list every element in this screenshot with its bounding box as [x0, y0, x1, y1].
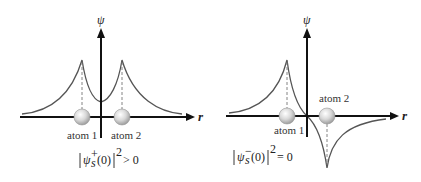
- x-axis-arrow-icon: [390, 112, 399, 120]
- atom2-label: atom 2: [111, 129, 141, 141]
- formula-arg: (0): [251, 150, 265, 164]
- formula-relation: = 0: [277, 150, 293, 164]
- x-axis-arrow-icon: [186, 113, 195, 121]
- bonding-diagram: r ψ atom 1 atom 2 ψ s + (0) 2 > 0: [20, 13, 204, 170]
- formula-psi: ψ: [83, 153, 91, 167]
- wavefunction-figure: r ψ atom 1 atom 2 ψ s + (0) 2 > 0: [0, 0, 421, 182]
- y-axis-label: ψ: [97, 13, 105, 27]
- formula-power: 2: [270, 142, 276, 156]
- atom1-label: atom 1: [67, 129, 97, 141]
- y-axis-label: ψ: [303, 13, 311, 27]
- formula-power: 2: [116, 145, 122, 159]
- formula-arg: (0): [97, 153, 111, 167]
- atom2-sphere: [319, 108, 335, 124]
- antibonding-diagram: r ψ atom 1 atom 2 ψ s − (0) 2 = 0: [226, 13, 408, 168]
- atom2-label: atom 2: [319, 92, 349, 104]
- formula-relation: > 0: [123, 153, 139, 167]
- atom1-sphere: [279, 108, 295, 124]
- atom1-label: atom 1: [274, 124, 304, 136]
- x-axis-label: r: [402, 108, 408, 123]
- antibonding-wavefunction-curve-negative: [307, 116, 386, 168]
- x-axis-label: r: [198, 109, 204, 124]
- formula-psi: ψ: [237, 150, 245, 164]
- atom2-sphere: [114, 109, 130, 125]
- atom1-sphere: [74, 109, 90, 125]
- antibonding-wavefunction-curve-positive: [229, 60, 307, 116]
- antibonding-formula: ψ s − (0) 2 = 0: [234, 142, 293, 167]
- bonding-formula: ψ s + (0) 2 > 0: [80, 145, 139, 170]
- y-axis-arrow-icon: [97, 28, 105, 38]
- y-axis-arrow-icon: [303, 28, 311, 38]
